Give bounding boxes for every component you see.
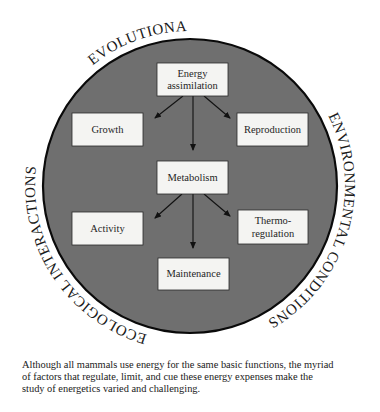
box-metabolism: Metabolism — [157, 161, 228, 194]
svg-text:Energy: Energy — [177, 68, 208, 79]
svg-text:Growth: Growth — [91, 124, 124, 135]
figure-caption: Although all mammals use energy for the … — [22, 359, 367, 395]
energy-flow-diagram: EVOLUTIONARY PRESSURES ENVIRONMENTAL CON… — [0, 0, 380, 350]
caption-line-3: study of energetics varied and challengi… — [22, 383, 367, 395]
caption-line-2: of factors that regulate, limit, and cue… — [22, 371, 367, 383]
svg-text:Metabolism: Metabolism — [167, 172, 217, 183]
svg-text:Thermo-: Thermo- — [255, 215, 292, 226]
svg-text:assimilation: assimilation — [167, 80, 218, 91]
svg-text:Reproduction: Reproduction — [244, 124, 302, 135]
box-maintenance: Maintenance — [158, 258, 229, 290]
svg-text:Activity: Activity — [90, 223, 125, 234]
box-activity: Activity — [72, 212, 143, 245]
svg-text:regulation: regulation — [252, 228, 295, 239]
box-growth: Growth — [72, 113, 143, 146]
box-energy-assimilation: Energy assimilation — [157, 63, 228, 96]
box-thermoregulation: Thermo- regulation — [238, 210, 308, 244]
caption-line-1: Although all mammals use energy for the … — [22, 359, 367, 371]
svg-text:Maintenance: Maintenance — [166, 268, 221, 279]
box-reproduction: Reproduction — [237, 113, 308, 146]
